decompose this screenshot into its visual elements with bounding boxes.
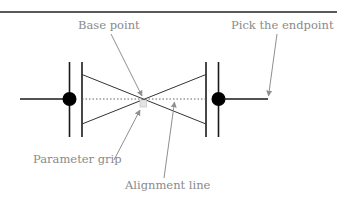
alignment-line-label: Alignment line [125, 180, 210, 192]
base-point-callout-arrow [111, 34, 142, 96]
pick-endpoint-callout-arrow [269, 34, 278, 96]
parameter-grip-square[interactable] [140, 100, 147, 107]
right-connection-dot [212, 92, 226, 106]
diagram-canvas: Base point Pick the endpoint Parameter g… [0, 0, 337, 207]
left-connection-dot [63, 92, 77, 106]
pick-endpoint-label: Pick the endpoint [231, 20, 334, 32]
alignment-line-callout-arrow [164, 102, 175, 178]
parameter-grip-label: Parameter grip [33, 154, 122, 166]
base-point-label: Base point [78, 20, 140, 32]
